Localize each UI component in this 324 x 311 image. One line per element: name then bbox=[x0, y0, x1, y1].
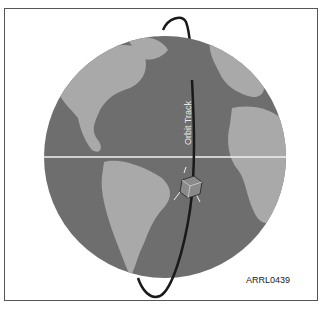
globe-diagram: Orbit Track bbox=[0, 0, 324, 311]
figure-code-label: ARRL0439 bbox=[246, 275, 290, 285]
orbit-track-label: Orbit Track bbox=[183, 100, 193, 145]
